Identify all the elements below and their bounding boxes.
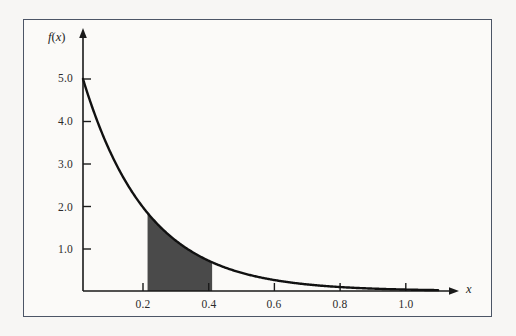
- x-tick-label-0-8: 0.8: [320, 298, 360, 310]
- y-tick-label-2: 2.0: [45, 201, 73, 213]
- y-axis-label: f(x): [48, 30, 65, 45]
- x-tick-label-1-0: 1.0: [386, 298, 426, 310]
- figure-frame: [23, 19, 492, 317]
- y-tick-label-5: 5.0: [45, 72, 73, 84]
- y-tick-label-4: 4.0: [45, 115, 73, 127]
- y-axis-label-paren-close: ): [61, 30, 65, 44]
- x-tick-label-0-4: 0.4: [189, 298, 229, 310]
- x-tick-label-0-2: 0.2: [123, 298, 163, 310]
- y-tick-label-1: 1.0: [45, 243, 73, 255]
- y-tick-label-3: 3.0: [45, 158, 73, 170]
- x-axis-label-var: x: [466, 282, 472, 296]
- figure-page: f(x) x 5.0 4.0 3.0 2.0 1.0 0.2 0.4 0.6 0…: [0, 0, 516, 336]
- x-tick-label-0-6: 0.6: [254, 298, 294, 310]
- x-axis-label: x: [466, 282, 472, 297]
